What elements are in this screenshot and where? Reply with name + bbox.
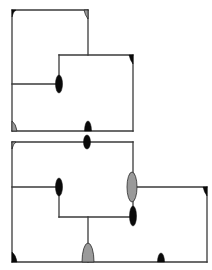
black-corner-marker-icon: [203, 187, 207, 196]
black-door-marker-icon: [130, 206, 137, 226]
grey-corner-marker-icon: [12, 121, 17, 131]
grey-corner-marker-icon: [84, 10, 88, 19]
black-door-marker-icon: [56, 75, 63, 93]
black-half-door-marker-icon: [85, 121, 92, 131]
grey-door-marker-icon: [127, 172, 137, 202]
floorplan-canvas: [0, 0, 212, 270]
black-corner-marker-icon: [12, 252, 17, 262]
black-half-door-marker-icon: [158, 253, 165, 262]
black-door-marker-icon: [84, 135, 91, 149]
floorplan-diagram: [0, 0, 212, 270]
black-corner-marker-icon: [129, 55, 133, 64]
grey-half-door-marker-icon: [82, 243, 94, 262]
floorplan-bottom: [12, 135, 207, 262]
grey-corner-marker-icon: [12, 142, 16, 149]
black-door-marker-icon: [56, 178, 63, 196]
floorplan-top: [12, 10, 133, 131]
